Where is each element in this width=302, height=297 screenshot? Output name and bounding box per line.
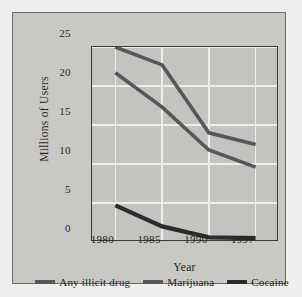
y-tick-label: 0 (45, 222, 71, 234)
legend-entry: Any illicit drug (35, 276, 130, 288)
legend-entry: Cocaine (227, 276, 288, 288)
y-tick-label: 5 (45, 183, 71, 195)
plot-area (91, 46, 278, 241)
chart-figure: 0510152025 1980198519901997 Millions of … (0, 0, 302, 297)
y-axis-title: Millions of Users (38, 59, 50, 179)
legend-swatch (143, 280, 163, 285)
legend-label: Cocaine (251, 276, 288, 288)
legend-label: Marijuana (167, 276, 214, 288)
legend-entry: Marijuana (143, 276, 214, 288)
figure-frame: 0510152025 1980198519901997 Millions of … (12, 12, 286, 284)
x-axis-title: Year (91, 261, 278, 273)
chart-legend: Any illicit drugMarijuanaCocaine (31, 276, 293, 288)
legend-swatch (35, 280, 55, 285)
legend-label: Any illicit drug (59, 276, 130, 288)
legend-swatch (227, 280, 247, 285)
series-line (115, 73, 255, 167)
series-line (115, 205, 255, 238)
y-tick-label: 25 (45, 27, 71, 39)
series-lines (92, 47, 278, 241)
